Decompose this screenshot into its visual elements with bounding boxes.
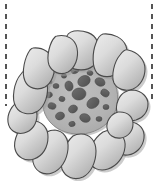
cross-section-diagram bbox=[0, 0, 160, 189]
inclusion-7 bbox=[53, 84, 59, 89]
cell-nw bbox=[48, 36, 78, 74]
figure-root bbox=[0, 0, 160, 189]
inclusion-18 bbox=[96, 117, 102, 122]
cell-ene2 bbox=[107, 112, 133, 138]
inclusion-15 bbox=[103, 104, 109, 109]
